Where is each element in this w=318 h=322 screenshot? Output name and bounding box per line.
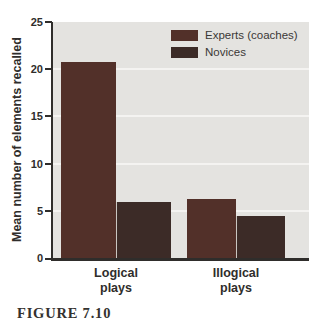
figure-caption: FIGURE 7.10 xyxy=(17,305,111,322)
y-tick-label-15: 15 xyxy=(11,111,43,122)
bar-experts-logical xyxy=(61,62,116,258)
bar-experts-illogical xyxy=(187,199,236,258)
legend-label-experts: Experts (coaches) xyxy=(205,29,298,41)
bar-novices-illogical xyxy=(236,216,285,258)
y-axis-line xyxy=(51,22,53,261)
x-category-label-illogical: Illogical plays xyxy=(187,266,285,296)
x-axis-line xyxy=(51,258,309,261)
legend-label-novices: Novices xyxy=(205,46,246,58)
bar-group-logical-plays xyxy=(61,22,171,258)
legend-item-experts: Experts (coaches) xyxy=(171,29,298,41)
plot-area: Experts (coaches) Novices xyxy=(53,22,309,258)
x-category-label-logical: Logical plays xyxy=(61,266,171,296)
y-tick-label-10: 10 xyxy=(11,159,43,170)
legend-swatch-experts xyxy=(171,30,198,41)
legend-item-novices: Novices xyxy=(171,46,298,58)
y-tick-label-20: 20 xyxy=(11,64,43,75)
bar-novices-logical xyxy=(116,202,171,258)
y-tick-label-5: 5 xyxy=(11,206,43,217)
y-tick-label-0: 0 xyxy=(11,253,43,264)
y-axis-title: Mean number of elements recalled xyxy=(8,22,26,258)
legend-swatch-novices xyxy=(171,47,198,58)
legend: Experts (coaches) Novices xyxy=(171,29,298,63)
y-tick-label-25: 25 xyxy=(11,17,43,28)
